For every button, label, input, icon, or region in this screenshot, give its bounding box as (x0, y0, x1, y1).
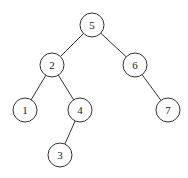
node-7: 7 (156, 98, 180, 122)
node-label: 6 (132, 59, 138, 71)
node-label: 5 (89, 19, 95, 31)
node-3: 3 (48, 143, 72, 167)
node-label: 7 (165, 104, 171, 116)
node-label: 1 (22, 104, 28, 116)
node-1: 1 (13, 98, 37, 122)
node-label: 3 (57, 149, 63, 161)
tree-diagram: 5 2 6 1 4 7 3 (0, 0, 188, 178)
node-2: 2 (40, 53, 64, 77)
node-4: 4 (68, 98, 92, 122)
node-6: 6 (123, 53, 147, 77)
node-label: 2 (49, 59, 55, 71)
node-label: 4 (77, 104, 83, 116)
node-5: 5 (80, 13, 104, 37)
edges (25, 25, 168, 155)
